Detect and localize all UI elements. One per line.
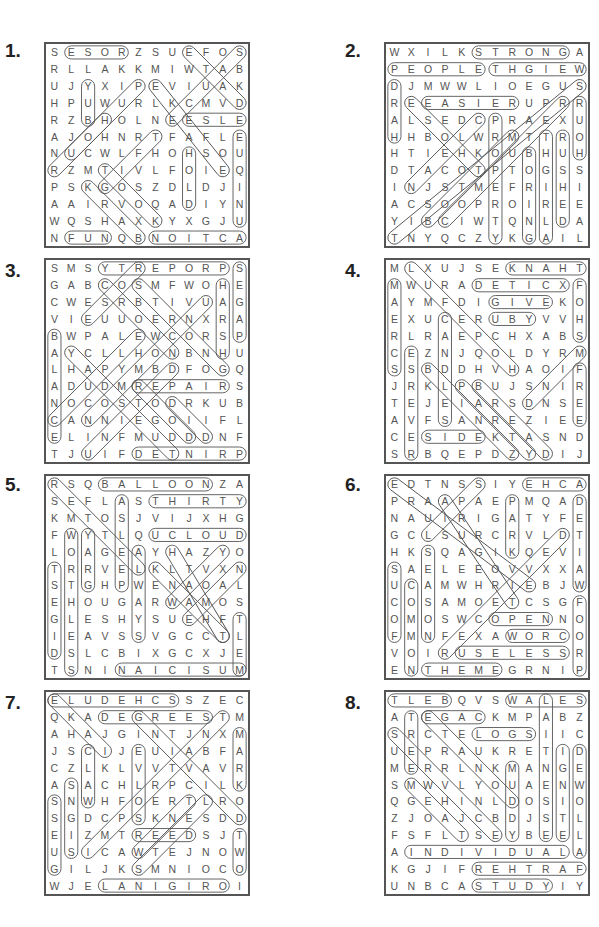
grid-letter: N: [403, 877, 420, 894]
grid-letter: C: [97, 277, 114, 294]
grid-letter: D: [164, 428, 181, 445]
grid-letter: U: [504, 776, 521, 793]
grid-letter: H: [470, 361, 487, 378]
grid-letter: B: [97, 476, 114, 493]
grid-letter: R: [130, 128, 147, 145]
grid-letter: R: [80, 560, 97, 577]
grid-letter: A: [198, 759, 215, 776]
grid-letter: J: [214, 179, 231, 196]
grid-letter: A: [97, 327, 114, 344]
grid-letter: L: [113, 145, 130, 162]
grid-letter: M: [63, 260, 80, 277]
grid-letter: B: [420, 445, 437, 462]
grid-letter: I: [198, 776, 215, 793]
grid-letter: S: [130, 179, 147, 196]
grid-letter: X: [214, 726, 231, 743]
grid-letter: E: [164, 111, 181, 128]
grid-letter: U: [470, 743, 487, 760]
grid-letter: E: [181, 611, 198, 628]
grid-letter: B: [147, 361, 164, 378]
grid-letter: E: [453, 311, 470, 328]
grid-letter: P: [538, 95, 555, 112]
grid-letter: O: [130, 793, 147, 810]
grid-letter: W: [63, 527, 80, 544]
grid-letter: O: [198, 577, 215, 594]
grid-letter: A: [386, 709, 403, 726]
grid-letter: A: [46, 378, 63, 395]
grid-letter: N: [147, 111, 164, 128]
grid-letter: D: [453, 294, 470, 311]
grid-letter: H: [97, 577, 114, 594]
grid-letter: L: [571, 229, 588, 246]
grid-letter: R: [130, 95, 147, 112]
grid-letter: W: [63, 327, 80, 344]
grid-letter: O: [181, 327, 198, 344]
grid-letter: R: [437, 743, 454, 760]
grid-letter: F: [181, 361, 198, 378]
grid-letter: E: [437, 395, 454, 412]
grid-letter: K: [147, 810, 164, 827]
grid-letter: G: [538, 162, 555, 179]
grid-letter: Y: [538, 877, 555, 894]
grid-letter: M: [130, 428, 147, 445]
grid-letter: W: [453, 611, 470, 628]
grid-letter: M: [386, 277, 403, 294]
grid-letter: E: [521, 644, 538, 661]
grid-letter: W: [437, 78, 454, 95]
grid-letter: F: [571, 277, 588, 294]
grid-letter: X: [198, 311, 215, 328]
grid-letter: E: [420, 793, 437, 810]
grid-letter: Q: [504, 212, 521, 229]
grid-letter: C: [470, 611, 487, 628]
grid-letter: B: [420, 128, 437, 145]
grid-letter: R: [97, 196, 114, 213]
grid-letter: P: [487, 162, 504, 179]
grid-letter: T: [130, 395, 147, 412]
grid-letter: Q: [437, 229, 454, 246]
grid-letter: M: [80, 162, 97, 179]
grid-letter: N: [554, 611, 571, 628]
grid-letter: R: [231, 759, 248, 776]
grid-letter: M: [453, 594, 470, 611]
grid-letter: T: [164, 445, 181, 462]
grid-letter: A: [386, 412, 403, 429]
grid-letter: H: [97, 128, 114, 145]
grid-letter: G: [80, 577, 97, 594]
grid-letter: J: [63, 128, 80, 145]
grid-letter: V: [521, 560, 538, 577]
grid-letter: E: [46, 692, 63, 709]
grid-letter: E: [487, 260, 504, 277]
grid-letter: E: [147, 793, 164, 810]
grid-letter: A: [453, 277, 470, 294]
grid-letter: E: [521, 476, 538, 493]
grid-letter: F: [80, 493, 97, 510]
grid-letter: T: [504, 594, 521, 611]
grid-letter: Q: [80, 476, 97, 493]
grid-letter: K: [420, 378, 437, 395]
grid-letter: U: [487, 311, 504, 328]
grid-letter: G: [63, 810, 80, 827]
grid-letter: M: [504, 759, 521, 776]
grid-letter: E: [521, 577, 538, 594]
grid-letter: G: [554, 44, 571, 61]
grid-letter: N: [538, 759, 555, 776]
grid-letter: R: [538, 628, 555, 645]
grid-letter: S: [386, 560, 403, 577]
grid-letter: E: [571, 395, 588, 412]
grid-letter: C: [198, 628, 215, 645]
grid-letter: I: [164, 743, 181, 760]
grid-letter: I: [554, 378, 571, 395]
grid-letter: H: [554, 179, 571, 196]
grid-letter: B: [420, 212, 437, 229]
grid-letter: Q: [63, 212, 80, 229]
grid-letter: E: [453, 327, 470, 344]
grid-letter: O: [571, 294, 588, 311]
grid-letter: K: [386, 860, 403, 877]
grid-letter: N: [80, 412, 97, 429]
grid-letter: S: [420, 428, 437, 445]
puzzle-number: 5.: [5, 474, 21, 496]
grid-letter: L: [130, 560, 147, 577]
grid-letter: E: [130, 412, 147, 429]
grid-letter: E: [420, 709, 437, 726]
grid-letter: H: [571, 145, 588, 162]
